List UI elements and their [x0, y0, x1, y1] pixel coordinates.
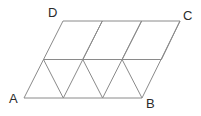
diagonal-left-2	[83, 60, 103, 99]
diagonal-left-1	[44, 60, 64, 99]
vertex-label-b: B	[146, 97, 155, 110]
vertex-label-a: A	[9, 92, 18, 105]
diagonal-left-5	[122, 21, 142, 60]
geometry-figure: A B C D	[0, 0, 201, 116]
diagonal-left-6	[162, 21, 181, 60]
figure-canvas	[0, 0, 201, 116]
vertex-label-d: D	[48, 6, 57, 19]
diagonal-left-3	[122, 60, 142, 99]
horizontal-lines	[24, 21, 180, 98]
diagonal-left-4	[83, 21, 103, 60]
vertex-label-c: C	[183, 9, 192, 22]
